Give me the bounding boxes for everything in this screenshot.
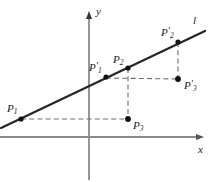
figure-canvas bbox=[0, 0, 211, 182]
point-label-p1-base: P bbox=[7, 102, 14, 114]
point-label-p2-sub: 2 bbox=[120, 58, 124, 67]
geometry-figure: P1 P'1 P2 P'2 P3 P'3 y x l bbox=[0, 0, 211, 182]
x-axis bbox=[0, 134, 204, 140]
point-marker-p2 bbox=[125, 65, 130, 70]
point-label-p3-sub: 3 bbox=[140, 124, 144, 133]
point-label-p1p-sub: 1 bbox=[98, 66, 102, 75]
y-axis-label: y bbox=[96, 6, 101, 17]
point-label-p1-prime: P'1 bbox=[89, 58, 102, 75]
point-marker-p1 bbox=[18, 116, 23, 121]
point-label-p2p-sub: 2 bbox=[170, 31, 174, 40]
point-label-p2-base: P bbox=[113, 53, 120, 65]
x-axis-arrowhead bbox=[196, 134, 204, 140]
dashed-p1p-p3p bbox=[106, 78, 178, 79]
point-label-p1: P1 bbox=[7, 99, 17, 116]
point-label-p2p-base: P bbox=[161, 26, 168, 38]
point-label-p3p-base: P bbox=[184, 79, 191, 91]
point-label-p3p-sub: 3 bbox=[193, 84, 197, 93]
y-axis bbox=[86, 11, 92, 180]
point-label-p2: P2 bbox=[113, 50, 123, 67]
point-label-p3: P3 bbox=[133, 116, 143, 133]
point-label-p1p-base: P bbox=[89, 61, 96, 73]
point-marker-p3 bbox=[125, 116, 131, 122]
x-axis-label: x bbox=[198, 144, 203, 155]
point-marker-p1p bbox=[103, 74, 108, 79]
point-marker-p3p bbox=[175, 76, 181, 82]
point-label-p3-prime: P'3 bbox=[184, 76, 197, 93]
line-l-label: l bbox=[193, 15, 196, 26]
point-label-p3-base: P bbox=[133, 119, 140, 131]
point-label-p2-prime: P'2 bbox=[161, 23, 174, 40]
y-axis-arrowhead bbox=[86, 11, 92, 19]
point-marker-p2p bbox=[175, 39, 180, 44]
point-label-p1-sub: 1 bbox=[14, 107, 18, 116]
